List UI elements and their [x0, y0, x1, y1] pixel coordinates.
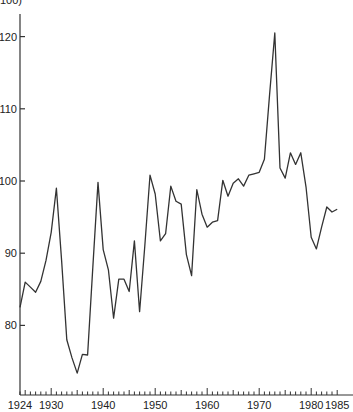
top-axis-label-partial: 100) — [0, 0, 22, 6]
y-axis-ticks: 8090100110120 — [0, 31, 25, 332]
x-tick-label: 1985 — [325, 399, 349, 411]
y-tick-label: 100 — [0, 175, 17, 187]
x-tick-label: 1980 — [299, 399, 323, 411]
x-tick-label: 1930 — [39, 399, 63, 411]
x-tick-label: 1924 — [8, 399, 32, 411]
x-tick-label: 1950 — [143, 399, 167, 411]
y-tick-label: 110 — [0, 103, 17, 115]
axes — [20, 14, 353, 395]
data-series — [20, 33, 337, 373]
series-line — [20, 33, 337, 373]
line-chart: 100) 8090100110120 192419301940195019601… — [0, 0, 353, 412]
y-tick-label: 80 — [5, 319, 17, 331]
x-tick-label: 1960 — [195, 399, 219, 411]
y-tick-label: 90 — [5, 247, 17, 259]
x-axis-ticks: 19241930194019501960197019801985 — [8, 388, 350, 411]
x-tick-label: 1940 — [91, 399, 115, 411]
x-tick-label: 1970 — [247, 399, 271, 411]
y-tick-label: 120 — [0, 31, 17, 43]
